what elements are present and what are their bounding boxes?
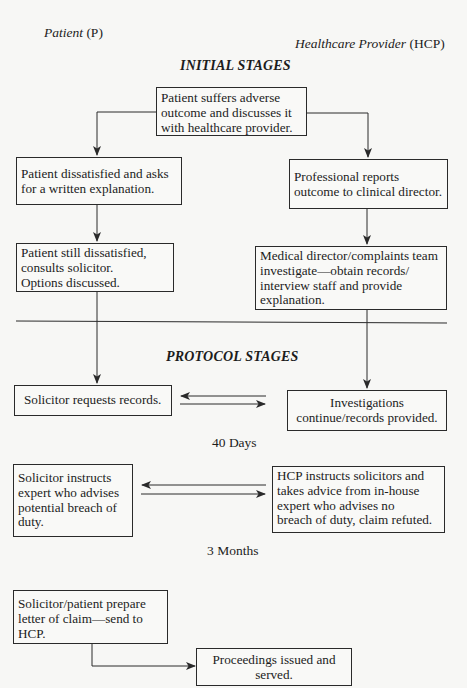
node-hcp-investigate: Medical director/complaints team investi… (255, 246, 447, 310)
node-proceedings-issued: Proceedings issued and served. (196, 648, 352, 686)
patient-label-abbr: (P) (83, 25, 103, 40)
timing-3-months: 3 Months (207, 543, 258, 559)
node-adverse-outcome: Patient suffers adverse outcome and disc… (156, 87, 307, 136)
initial-stages-heading: INITIAL STAGES (180, 58, 291, 74)
node-solicitor-instructs-expert: Solicitor instructs expert who advises p… (13, 464, 133, 537)
node-solicitor-requests-records: Solicitor requests records. (14, 385, 172, 416)
hcp-label-text: Healthcare Provider (295, 36, 406, 51)
node-investigations-records-provided: Investigations continue/records provided… (287, 390, 447, 431)
node-patient-consults-solicitor: Patient still dissatisfied, consults sol… (16, 243, 174, 292)
node-patient-written-explanation: Patient dissatisfied and asks for a writ… (16, 157, 182, 205)
timing-40-days: 40 Days (212, 435, 257, 451)
node-letter-of-claim: Solicitor/patient prepare letter of clai… (13, 590, 168, 644)
hcp-label-abbr: (HCP) (406, 36, 445, 51)
hcp-column-label: Healthcare Provider (HCP) (295, 36, 445, 52)
patient-label-text: Patient (44, 25, 83, 40)
node-professional-reports: Professional reports outcome to clinical… (289, 159, 448, 209)
patient-column-label: Patient (P) (44, 25, 103, 41)
protocol-stages-heading: PROTOCOL STAGES (166, 349, 299, 365)
node-hcp-instructs-solicitors: HCP instructs solicitors and takes advic… (272, 466, 445, 533)
